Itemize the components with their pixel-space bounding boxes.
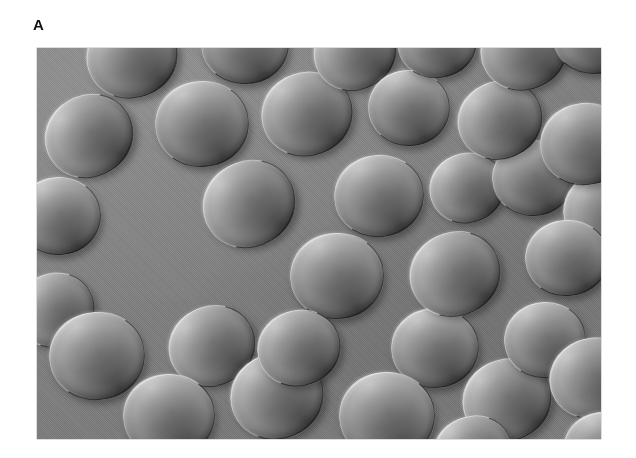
cell-field [37,48,601,439]
panel-label: A [33,17,44,33]
erythrocyte-dic-micrograph [37,48,601,439]
figure-panel: A [0,0,636,458]
